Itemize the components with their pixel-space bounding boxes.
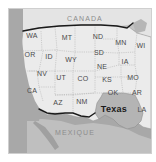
state-label-ca: CA	[27, 87, 37, 94]
state-label-mo: MO	[127, 74, 139, 81]
state-label-co: CO	[78, 75, 89, 82]
state-label-la: LA	[138, 106, 147, 113]
state-label-nv: NV	[37, 70, 47, 77]
state-label-id: ID	[45, 53, 52, 60]
state-label-wy: WY	[65, 56, 77, 63]
state-label-mn: MN	[115, 39, 126, 46]
state-label-nd: ND	[93, 33, 104, 40]
texas-label: Texas	[101, 104, 127, 114]
mexique-label: MEXIQUE	[55, 129, 95, 137]
state-label-wi: WI	[137, 42, 146, 49]
map-figure: CANADA MEXIQUE Texas WA OR ID MT ND MN W…	[0, 0, 156, 162]
canada-label: CANADA	[67, 15, 103, 22]
state-label-sd: SD	[94, 49, 104, 56]
state-label-nm: NM	[76, 98, 87, 105]
state-label-or: OR	[25, 51, 36, 58]
us-map-svg: CANADA MEXIQUE Texas WA OR ID MT ND MN W…	[9, 9, 151, 153]
state-label-ks: KS	[102, 76, 112, 83]
state-label-ia: IA	[121, 58, 128, 65]
state-label-ok: OK	[108, 89, 119, 96]
state-label-wa: WA	[26, 32, 38, 39]
state-label-ar: AR	[132, 89, 142, 96]
state-label-az: AZ	[53, 99, 63, 106]
map-frame: CANADA MEXIQUE Texas WA OR ID MT ND MN W…	[8, 8, 152, 154]
state-label-mt: MT	[62, 34, 73, 41]
state-label-ut: UT	[56, 74, 66, 81]
state-label-ne: NE	[97, 63, 107, 70]
